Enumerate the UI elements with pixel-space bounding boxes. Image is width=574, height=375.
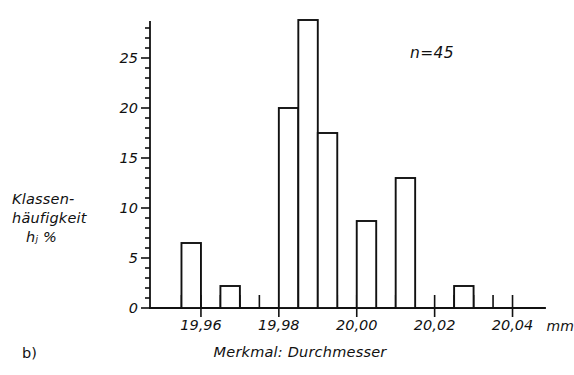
x-tick-label: 19,96 (180, 317, 222, 333)
x-axis-title: Merkmal: Durchmesser (150, 344, 450, 360)
y-tick-label: 10 (108, 200, 138, 216)
histogram-bar (220, 286, 239, 308)
x-tick-label: 19,98 (258, 317, 300, 333)
y-axis-title-line-1: Klassen- (12, 191, 74, 207)
axes (150, 22, 545, 308)
y-tick-label: 25 (108, 50, 138, 66)
y-tick-label: 20 (108, 100, 138, 116)
sample-size-annotation: n=45 (410, 44, 454, 62)
histogram-bar (279, 108, 298, 308)
y-tick-label: 5 (108, 250, 138, 266)
histogram-bar (318, 133, 337, 308)
y-axis-title: Klassen- häufigkeit hⱼ % (12, 190, 140, 247)
x-tick-label: 20,00 (336, 317, 378, 333)
histogram-bar (454, 286, 473, 308)
x-axis-unit-label: mm (547, 318, 574, 334)
histogram-bar (181, 243, 200, 308)
y-tick-label: 15 (108, 150, 138, 166)
plot-area (141, 20, 545, 317)
bar-group (181, 20, 473, 308)
histogram-bar (357, 221, 376, 308)
histogram-bar (396, 178, 415, 308)
y-tick-label: 0 (108, 300, 138, 316)
y-axis-title-line-2: häufigkeit (12, 210, 87, 226)
x-tick-label: 20,02 (414, 317, 456, 333)
y-ticks (141, 28, 150, 308)
histogram-bar (298, 20, 317, 308)
y-axis-title-line-3: hⱼ % (12, 228, 140, 247)
subfigure-tag: b) (22, 345, 37, 361)
x-tick-label: 20,04 (492, 317, 534, 333)
